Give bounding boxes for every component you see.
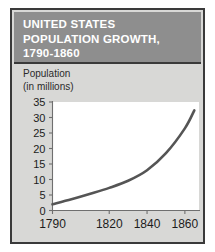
y-tick-label: 10	[33, 174, 45, 186]
plot-background	[52, 102, 199, 210]
y-tick-label: 25	[33, 127, 45, 139]
y-axis-title: Population (in millions)	[23, 68, 74, 93]
chart-panel: Population (in millions) 05101520253035 …	[12, 64, 203, 242]
title-line-3: 1790-1860	[23, 46, 201, 61]
x-tick-label: 1790	[39, 217, 66, 231]
line-chart-svg: 05101520253035 1790182018401860	[12, 98, 203, 240]
title-line-2: POPULATION GROWTH,	[23, 32, 201, 47]
y-axis-title-line-2: (in millions)	[23, 81, 74, 94]
y-axis-tick-labels: 05101520253035	[33, 98, 45, 217]
title-line-1: UNITED STATES	[23, 17, 201, 32]
chart-title-bar: UNITED STATES POPULATION GROWTH, 1790-18…	[14, 12, 201, 64]
x-tick-label: 1820	[96, 217, 123, 231]
x-tick-label: 1860	[172, 217, 199, 231]
y-tick-label: 35	[33, 98, 45, 108]
y-axis-title-line-1: Population	[23, 68, 74, 81]
figure-container: UNITED STATES POPULATION GROWTH, 1790-18…	[10, 8, 205, 244]
y-tick-label: 15	[33, 158, 45, 170]
plot-area: 05101520253035 1790182018401860	[12, 98, 203, 240]
y-tick-label: 5	[39, 189, 45, 201]
y-tick-label: 20	[33, 143, 45, 155]
y-tick-label: 30	[33, 112, 45, 124]
x-axis-tick-labels: 1790182018401860	[39, 217, 198, 231]
x-tick-label: 1840	[134, 217, 161, 231]
y-tick-label: 0	[39, 205, 45, 217]
